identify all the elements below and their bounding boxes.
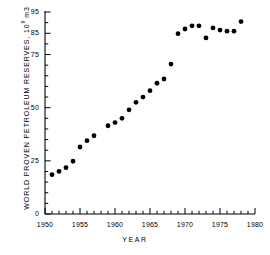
data-point [57,169,62,174]
plot-area [0,0,270,255]
x-tick-label: 1950 [32,221,58,228]
data-point [218,28,223,33]
data-point [211,26,216,31]
x-axis-title: YEAR [0,236,270,243]
y-axis-title-mantissa: 10 [23,23,30,33]
data-point [239,19,244,24]
axis-ticks [45,12,255,214]
chart-canvas [0,0,270,255]
y-axis-title-units: m3 [23,6,30,20]
data-points [50,19,244,177]
data-point [113,120,118,125]
x-tick-label: 1960 [102,221,128,228]
data-point [225,29,230,34]
data-point [134,100,139,105]
x-tick-label: 1965 [137,221,163,228]
x-tick-label: 1975 [207,221,233,228]
data-point [71,159,76,164]
data-point [78,145,83,150]
x-tick-label: 1970 [172,221,198,228]
data-point [169,62,174,67]
y-axis-title-text: WORLD PROVEN PETROLEUM RESERVES, [23,33,30,210]
data-point [155,81,160,86]
data-point [204,36,209,41]
data-point [190,23,195,28]
data-point [50,172,55,177]
data-point [232,29,237,34]
data-point [92,133,97,138]
data-point [183,27,188,32]
data-point [106,123,111,128]
y-tick-label: 0 [17,210,39,217]
axes [45,11,255,214]
data-point [197,23,202,28]
y-axis-title: WORLD PROVEN PETROLEUM RESERVES, 109 m3 [20,10,29,210]
y-axis-title-exponent: 9 [20,21,26,24]
data-point [64,165,69,170]
x-tick-label: 1955 [67,221,93,228]
data-point [141,95,146,100]
data-point [127,107,132,112]
chart-figure: 02550758595 1950195519601965197019751980… [0,0,270,255]
data-point [162,77,167,82]
data-point [148,88,153,93]
data-point [176,31,181,36]
data-point [85,138,90,143]
data-point [120,116,125,121]
x-tick-label: 1980 [242,221,268,228]
